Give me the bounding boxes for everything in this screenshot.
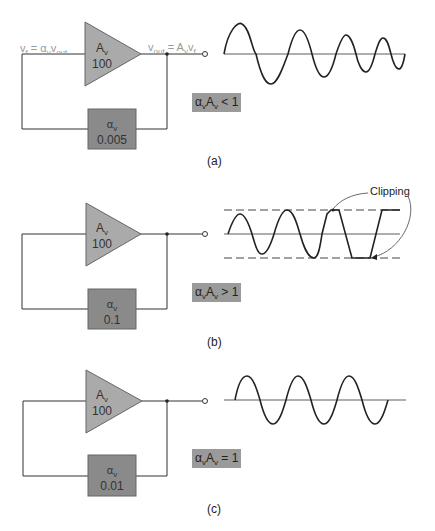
caption-c: (c) xyxy=(207,503,221,515)
lg-a: A xyxy=(206,285,214,299)
feedback-label-c: αv 0.01 xyxy=(87,465,137,492)
lg-alpha: α xyxy=(195,451,202,465)
junction-dot-b xyxy=(165,232,169,236)
junction-dot-c xyxy=(165,399,169,403)
eq-vf-sub: f xyxy=(193,47,195,56)
lg-a: A xyxy=(206,451,214,465)
eq-sign: = xyxy=(28,42,41,54)
clipping-arrow-upper-head xyxy=(332,209,335,212)
amp-symbol: A xyxy=(96,388,104,402)
loop-gain-badge-b: αvAv > 1 xyxy=(192,283,241,302)
caption-b: (b) xyxy=(207,336,222,348)
lg-relation: < 1 xyxy=(218,95,238,109)
amp-symbol: A xyxy=(96,41,104,55)
lg-alpha: α xyxy=(195,285,202,299)
amplifier-label-b: Av 100 xyxy=(77,222,127,250)
amp-symbol: A xyxy=(96,221,104,235)
amp-sub: v xyxy=(104,395,108,404)
amp-gain: 100 xyxy=(77,238,127,250)
clipping-arrow-lower-head xyxy=(371,254,377,260)
caption-a: (a) xyxy=(207,155,222,167)
clipping-annotation: Clipping xyxy=(370,186,410,197)
amp-sub: v xyxy=(104,48,108,57)
amp-gain: 100 xyxy=(77,58,127,70)
output-terminal-a xyxy=(203,52,208,57)
eq-sign: = xyxy=(165,41,177,53)
loop-gain-badge-c: αvAv = 1 xyxy=(192,449,241,468)
amplifier-label-a: Av 100 xyxy=(77,42,127,70)
lg-relation: > 1 xyxy=(218,285,238,299)
fb-sub: v xyxy=(113,304,117,313)
fb-value: 0.01 xyxy=(87,480,137,492)
lg-alpha: α xyxy=(195,95,202,109)
lg-a: A xyxy=(206,95,214,109)
output-equation-a: vout = Avvf xyxy=(148,42,196,56)
clipping-arrow-lower xyxy=(374,196,411,257)
eq-av: A xyxy=(177,41,184,53)
amp-sub: v xyxy=(104,228,108,237)
input-feedback-equation-a: vf = αvvout xyxy=(20,43,67,57)
oscillator-feedback-diagram: vf = αvvout vout = Avvf Av 100 αv 0.005 … xyxy=(0,0,435,531)
loop-gain-badge-a: αvAv < 1 xyxy=(192,93,241,112)
feedback-label-a: αv 0.005 xyxy=(87,119,137,146)
eq-vout-sub: out xyxy=(56,48,67,57)
fb-sub: v xyxy=(113,470,117,479)
lg-relation: = 1 xyxy=(218,451,238,465)
clipping-arrow-upper xyxy=(333,193,368,209)
eq-vout-sub: out xyxy=(154,47,165,56)
output-terminal-b xyxy=(203,232,208,237)
fb-value: 0.1 xyxy=(87,314,137,326)
output-terminal-c xyxy=(203,399,208,404)
fb-sub: v xyxy=(113,124,117,133)
feedback-label-b: αv 0.1 xyxy=(87,299,137,326)
fb-value: 0.005 xyxy=(87,134,137,146)
amp-gain: 100 xyxy=(77,405,127,417)
amplifier-label-c: Av 100 xyxy=(77,389,127,417)
